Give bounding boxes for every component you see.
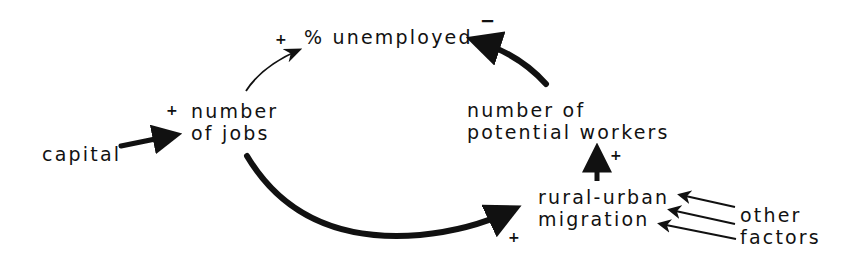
arrow-capital-to-jobs (121, 136, 170, 146)
node-unemployed: % unemployed (304, 26, 473, 48)
arrow-other-to-migration-2 (671, 210, 735, 224)
node-capital-label: capital (42, 143, 121, 165)
sign-migration-plus: + (508, 230, 520, 244)
node-workers: number of potential workers (467, 99, 670, 143)
arrow-jobs-to-migration (247, 156, 508, 236)
sign-unemployed-plus: + (275, 32, 287, 46)
node-capital: capital (42, 143, 121, 165)
node-migration-line1: rural-urban (538, 186, 669, 208)
node-workers-line1: number of (467, 99, 670, 121)
arrow-workers-to-unemployed (480, 42, 546, 84)
node-other-line2: factors (740, 226, 821, 248)
node-migration: rural-urban migration (538, 186, 669, 230)
node-jobs: number of jobs (191, 100, 278, 144)
node-workers-line2: potential workers (467, 121, 670, 143)
node-other-factors: other factors (740, 204, 821, 248)
node-jobs-line1: number (191, 100, 278, 122)
node-unemployed-label: % unemployed (304, 26, 473, 48)
node-migration-line2: migration (538, 208, 669, 230)
node-jobs-line2: of jobs (191, 122, 278, 144)
sign-unemployed-minus: − (480, 14, 495, 28)
arrow-other-to-migration-1 (681, 195, 735, 207)
causal-loop-diagram: % unemployed + − + number of jobs capita… (0, 0, 854, 267)
arrow-jobs-to-unemployed (246, 50, 299, 91)
arrow-other-to-migration-3 (661, 224, 736, 239)
sign-workers-plus: + (610, 148, 622, 162)
node-other-line1: other (740, 204, 821, 226)
sign-jobs-plus: + (166, 103, 178, 117)
